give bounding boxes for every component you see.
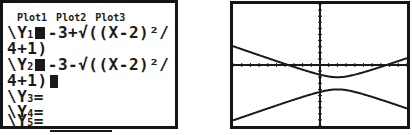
graph-plot bbox=[233, 4, 407, 126]
text-cursor bbox=[50, 75, 58, 88]
graph-screen bbox=[230, 1, 410, 129]
y1-expression-line1: -3+√((X-2)²/ bbox=[48, 23, 170, 42]
plot3-toggle[interactable]: Plot3 bbox=[95, 12, 125, 23]
caption-underline bbox=[50, 130, 112, 132]
y5-entry[interactable]: \Y5= bbox=[7, 113, 44, 131]
plot-toggles: Plot1Plot2Plot3 bbox=[17, 12, 134, 23]
y-equals-editor-screen: Plot1Plot2Plot3 \Y1-3+√((X-2)²/ 4+1) \Y2… bbox=[0, 0, 178, 129]
plot1-toggle[interactable]: Plot1 bbox=[17, 12, 47, 23]
y2-expression-line1: -3-√((X-2)²/ bbox=[48, 55, 170, 74]
y2-selected-equals-icon[interactable] bbox=[35, 59, 45, 71]
plot2-toggle[interactable]: Plot2 bbox=[56, 12, 86, 23]
y1-selected-equals-icon[interactable] bbox=[35, 27, 45, 39]
